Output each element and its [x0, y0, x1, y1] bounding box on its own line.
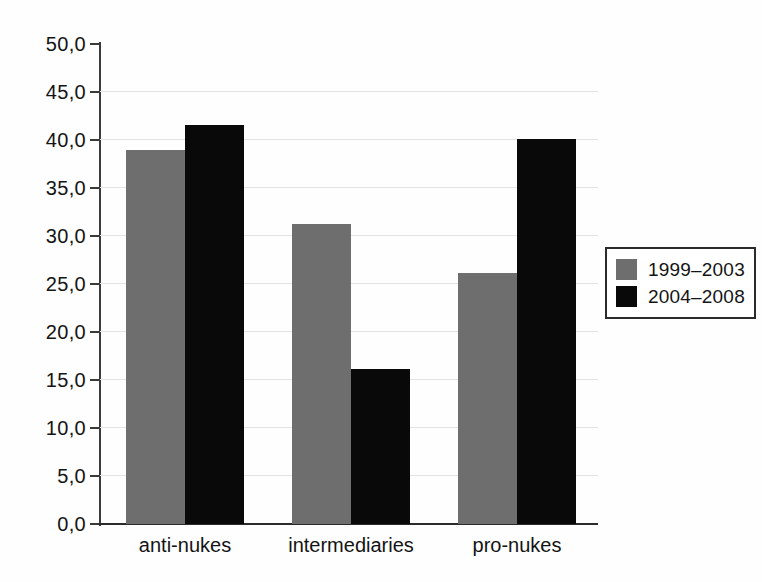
- chart-legend: 1999–2003 2004–2008: [605, 247, 756, 319]
- legend-item: 2004–2008: [616, 283, 745, 310]
- bar: [351, 369, 410, 524]
- y-axis-tick: [90, 283, 99, 285]
- legend-label-series-0: 1999–2003: [648, 259, 745, 281]
- y-axis-tick-label: 15,0: [16, 369, 86, 392]
- bar-chart: 0,05,010,015,020,025,030,035,040,045,050…: [0, 0, 762, 582]
- y-axis-tick-label: 20,0: [16, 321, 86, 344]
- y-axis-tick-label: 10,0: [16, 417, 86, 440]
- y-axis-tick-labels: 0,05,010,015,020,025,030,035,040,045,050…: [8, 0, 86, 582]
- bar: [292, 224, 351, 524]
- y-axis-tick-label: 30,0: [16, 225, 86, 248]
- y-axis-tick-label: 25,0: [16, 273, 86, 296]
- y-axis-tick: [90, 523, 99, 525]
- y-axis-tick: [90, 187, 99, 189]
- y-axis-tick: [90, 331, 99, 333]
- x-axis-category-label: anti-nukes: [139, 534, 231, 557]
- y-axis-tick-label: 0,0: [16, 513, 86, 536]
- y-axis-tick-label: 40,0: [16, 129, 86, 152]
- y-axis-tick: [90, 475, 99, 477]
- y-axis-tick-label: 50,0: [16, 33, 86, 56]
- x-axis-category-label: pro-nukes: [473, 534, 562, 557]
- y-axis-tick: [90, 427, 99, 429]
- bar: [185, 125, 244, 524]
- bar: [517, 139, 576, 524]
- y-axis-tick: [90, 379, 99, 381]
- bar: [126, 150, 185, 524]
- y-axis-tick: [90, 235, 99, 237]
- y-axis-tick: [90, 43, 99, 45]
- y-axis-tick-label: 5,0: [16, 465, 86, 488]
- x-axis-category-label: intermediaries: [288, 534, 414, 557]
- legend-swatch-series-1: [616, 286, 637, 307]
- y-axis-tick-label: 35,0: [16, 177, 86, 200]
- plot-area: [100, 44, 598, 524]
- legend-item: 1999–2003: [616, 256, 745, 283]
- legend-label-series-1: 2004–2008: [648, 286, 745, 308]
- y-axis-tick-label: 45,0: [16, 81, 86, 104]
- gridline: [100, 91, 598, 92]
- y-axis-tick: [90, 139, 99, 141]
- y-axis-tick: [90, 91, 99, 93]
- legend-swatch-series-0: [616, 259, 637, 280]
- bar: [458, 273, 517, 524]
